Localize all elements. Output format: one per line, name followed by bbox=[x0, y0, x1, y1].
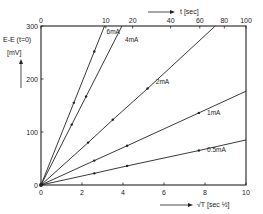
data-point bbox=[146, 87, 148, 89]
x2-tick-label: 0 bbox=[39, 17, 43, 24]
series-label: 0.5mA bbox=[207, 146, 226, 153]
x2-tick-label: 60 bbox=[196, 17, 204, 24]
x-tick-label: 6 bbox=[162, 189, 166, 196]
x-tick-label: 0 bbox=[39, 189, 43, 196]
series-line-1mA bbox=[41, 91, 246, 185]
data-point bbox=[198, 149, 200, 151]
x-tick-label: 2 bbox=[80, 189, 84, 196]
data-point bbox=[93, 159, 95, 161]
x2-axis-title: t [sec] bbox=[180, 8, 199, 16]
data-point bbox=[87, 141, 89, 143]
data-point bbox=[93, 50, 95, 52]
data-lines: 6mA4mA2mA1mA0.5mA bbox=[39, 26, 246, 187]
data-point bbox=[112, 119, 114, 121]
series-line-2mA bbox=[41, 26, 215, 185]
y-tick-label: 300 bbox=[26, 23, 38, 30]
data-point bbox=[126, 165, 128, 167]
x2-tick-label: 10 bbox=[102, 17, 110, 24]
x2-tick-label: 100 bbox=[240, 17, 252, 24]
x-tick-label: 8 bbox=[203, 189, 207, 196]
series-label: 1mA bbox=[207, 109, 221, 116]
data-point bbox=[126, 145, 128, 147]
x2-tick-label: 80 bbox=[220, 17, 228, 24]
data-point bbox=[93, 172, 95, 174]
data-point bbox=[85, 95, 87, 97]
y-tick-label: 100 bbox=[26, 129, 38, 136]
origin-marker bbox=[39, 183, 43, 187]
y-axis-title: E-E (t=0) bbox=[3, 36, 31, 44]
x2-tick-label: 20 bbox=[129, 17, 137, 24]
axis-ticks: 0246810010020030001020406080100 bbox=[26, 17, 252, 196]
x2-axis-arrowhead-icon bbox=[170, 10, 175, 14]
x-tick-label: 4 bbox=[121, 189, 125, 196]
x2-tick-label: 40 bbox=[167, 17, 175, 24]
x-axis-title: √T [sec ½] bbox=[197, 201, 230, 209]
chart: 0246810010020030001020406080100 6mA4mA2m… bbox=[0, 0, 263, 214]
y-axis-arrowhead-icon bbox=[19, 59, 23, 64]
x-tick-label: 10 bbox=[242, 189, 250, 196]
data-point bbox=[71, 123, 73, 125]
series-label: 4mA bbox=[125, 36, 139, 43]
y-tick-label: 0 bbox=[34, 182, 38, 189]
data-point bbox=[73, 102, 75, 104]
y-axis-unit: [mV] bbox=[7, 49, 21, 57]
series-line-4mA bbox=[41, 26, 122, 185]
x-axis-arrowhead-icon bbox=[188, 203, 193, 207]
series-label: 2mA bbox=[156, 78, 170, 85]
y-tick-label: 200 bbox=[26, 76, 38, 83]
series-label: 6mA bbox=[107, 28, 121, 35]
data-point bbox=[198, 112, 200, 114]
